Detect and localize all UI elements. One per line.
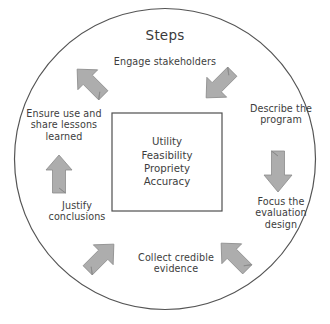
- step-label-focus-the-evaluation-design: Focus the evaluation design: [238, 196, 324, 230]
- arrow-justify-to-ensure-icon: [46, 155, 72, 193]
- page-title: Steps: [0, 27, 330, 43]
- step-label-ensure-use-and-share-lessons-learned: Ensure use and share lessons learned: [14, 108, 114, 142]
- arrow-collect-to-justify-icon: [78, 234, 124, 280]
- step-label-engage-stakeholders: Engage stakeholders: [85, 56, 245, 67]
- arrow-describe-to-focus-icon: [264, 151, 292, 192]
- step-label-collect-credible-evidence: Collect credible evidence: [122, 252, 230, 275]
- step-label-describe-the-program: Describe the program: [238, 103, 324, 126]
- arrow-engage-to-describe-icon: [196, 62, 242, 108]
- center-standards-text: Utility Feasibility Propriety Accuracy: [112, 113, 222, 211]
- evaluation-framework-diagram: Steps Engage stakeholders Describe the p…: [0, 0, 330, 324]
- step-label-justify-conclusions: Justify conclusions: [32, 200, 122, 223]
